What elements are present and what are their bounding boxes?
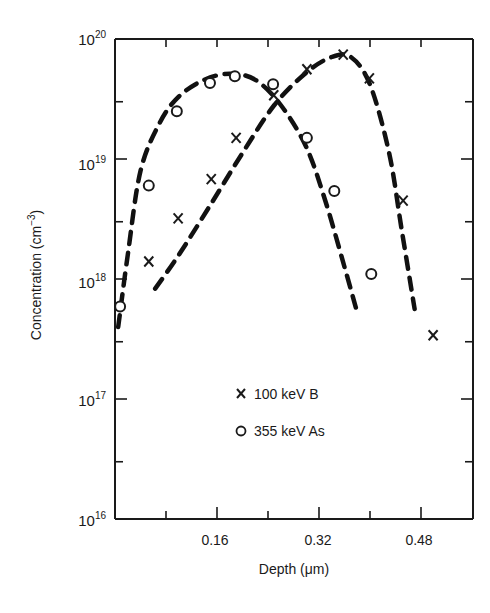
arsenic-data-point — [205, 78, 215, 88]
arsenic-data-point — [268, 79, 278, 89]
boron-data-point — [399, 196, 408, 206]
circle-marker-icon — [237, 427, 246, 436]
boron-data-point — [144, 256, 153, 266]
axis-ticks — [115, 39, 473, 519]
legend-item-boron: 100 keV B — [237, 386, 319, 402]
legend-label-arsenic: 355 keV As — [254, 423, 325, 439]
boron-data-point — [207, 174, 216, 184]
x-tick-0.48: 0.48 — [405, 532, 432, 548]
fit-curves — [118, 54, 414, 327]
arsenic-data-point — [329, 186, 339, 196]
y-tick-1e20: 1020 — [78, 29, 106, 48]
arsenic-data-point — [115, 301, 125, 311]
arsenic-data-point — [230, 71, 240, 81]
x-tick-0.16: 0.16 — [201, 532, 228, 548]
boron-data-point — [429, 330, 438, 340]
arsenic-data-point — [144, 181, 154, 191]
y-tick-1e17: 1017 — [78, 390, 106, 409]
legend-item-arsenic: 355 keV As — [237, 423, 325, 439]
x-tick-0.32: 0.32 — [304, 532, 331, 548]
boron-data-point — [174, 213, 183, 223]
x-tick-labels: 0.16 0.32 0.48 — [201, 532, 432, 548]
depth-profile-chart: 1020 1019 1018 1017 1016 0.16 0.32 0.48 … — [0, 0, 490, 613]
x-marker-icon — [237, 389, 245, 398]
x-axis-title: Depth (μm) — [259, 561, 329, 577]
arsenic-data-point — [302, 133, 312, 143]
legend-label-boron: 100 keV B — [254, 386, 319, 402]
legend: 100 keV B 355 keV As — [237, 386, 325, 439]
y-tick-1e16: 1016 — [78, 510, 106, 529]
y-tick-labels: 1020 1019 1018 1017 1016 — [78, 29, 106, 529]
arsenic-data-point — [172, 106, 182, 116]
data-markers — [115, 50, 438, 341]
arsenic-data-point — [366, 269, 376, 279]
boron-data-point — [232, 133, 241, 143]
y-tick-1e18: 1018 — [78, 272, 106, 291]
y-axis-title: Concentration (cm−3) — [26, 210, 44, 340]
plot-frame — [115, 39, 473, 519]
y-tick-1e19: 1019 — [78, 154, 106, 173]
